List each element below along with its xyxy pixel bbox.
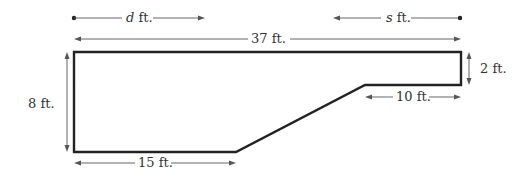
bottom-width-label: 15 ft. [138, 155, 173, 170]
arrow-left-icon [365, 95, 372, 100]
arrow-right-icon [454, 95, 461, 100]
bottom-width-dimension: 15 ft. [74, 155, 236, 170]
arrow-down-icon [65, 145, 70, 152]
step-width-dimension: 10 ft. [365, 89, 461, 104]
s-end-dot [458, 16, 462, 20]
left-height-label: 8 ft. [28, 96, 55, 111]
d-dimension: d ft. [72, 10, 205, 25]
top-width-label: 37 ft. [251, 31, 286, 46]
right-height-label: 2 ft. [480, 61, 507, 76]
s-dimension: s ft. [333, 10, 462, 25]
arrow-right-icon [198, 16, 205, 21]
diagram-canvas: d ft. s ft. 37 ft. 8 ft. 2 ft. 10 [0, 0, 527, 177]
top-width-dimension: 37 ft. [74, 31, 461, 46]
arrow-right-icon [229, 161, 236, 166]
s-label: s ft. [386, 10, 411, 25]
arrow-up-icon [65, 52, 70, 59]
arrow-right-icon [454, 37, 461, 42]
step-width-label: 10 ft. [396, 89, 431, 104]
d-label: d ft. [126, 10, 153, 25]
arrow-left-icon [74, 37, 81, 42]
right-height-dimension: 2 ft. [467, 52, 507, 85]
left-height-dimension: 8 ft. [28, 52, 70, 152]
arrow-down-icon [467, 78, 472, 85]
arrow-up-icon [467, 52, 472, 59]
arrow-left-icon [74, 161, 81, 166]
